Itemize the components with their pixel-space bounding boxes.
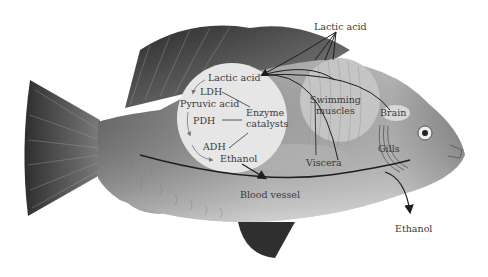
label-adh: ADH <box>202 141 226 152</box>
tail-fin <box>24 80 100 216</box>
label-ethanol-out: Ethanol <box>395 223 432 234</box>
label-ethanol-circle: Ethanol <box>220 153 257 164</box>
label-catalysts: catalysts <box>246 118 289 129</box>
label-swimming: Swimming <box>310 94 361 105</box>
label-ldh: LDH <box>200 86 222 97</box>
label-pdh: PDH <box>193 115 215 126</box>
label-viscera: Viscera <box>305 157 342 168</box>
fish-illustration: Lactic acid Lactic acid LDH Pyruvic acid… <box>0 0 488 277</box>
label-brain: Brain <box>380 107 406 118</box>
label-muscles: muscles <box>316 105 355 116</box>
label-pyruvic-acid: Pyruvic acid <box>180 98 239 109</box>
label-gills: Gills <box>378 143 400 154</box>
fish-diagram: Lactic acid Lactic acid LDH Pyruvic acid… <box>0 0 488 277</box>
eye <box>418 126 432 140</box>
label-enzyme: Enzyme <box>246 107 284 118</box>
label-lactic-acid-circle: Lactic acid <box>208 72 261 83</box>
label-blood-vessel: Blood vessel <box>240 189 300 200</box>
label-lactic-acid-top: Lactic acid <box>314 21 367 32</box>
